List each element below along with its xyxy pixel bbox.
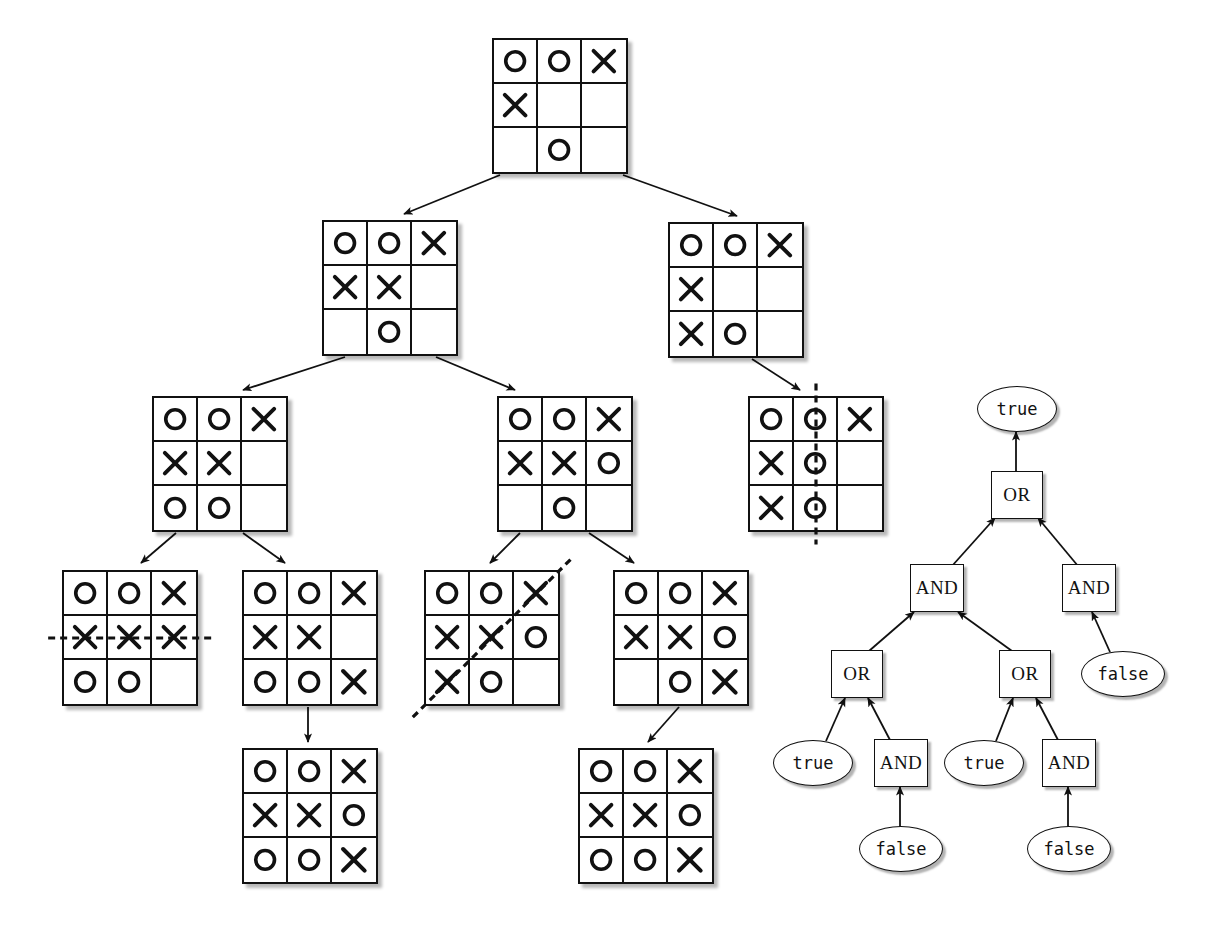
bool-node-b-and-l2[interactable]: AND: [874, 739, 928, 787]
board-cell[interactable]: [514, 660, 558, 704]
board-cell[interactable]: [615, 660, 659, 704]
board-cell[interactable]: [758, 268, 802, 312]
board-cell[interactable]: [703, 572, 747, 616]
board-cell[interactable]: [470, 616, 514, 660]
board-cell[interactable]: [582, 40, 626, 84]
bool-node-b-true-r[interactable]: true: [944, 740, 1024, 786]
board-cell[interactable]: [668, 750, 712, 794]
board-cell[interactable]: [624, 750, 668, 794]
board-cell[interactable]: [670, 224, 714, 268]
level3-board-1-x-wins[interactable]: [62, 570, 198, 706]
root-board[interactable]: [492, 38, 628, 174]
board-cell[interactable]: [426, 660, 470, 704]
board-cell[interactable]: [794, 442, 838, 486]
board-cell[interactable]: [703, 616, 747, 660]
board-cell[interactable]: [324, 222, 368, 266]
board-cell[interactable]: [412, 222, 456, 266]
board-cell[interactable]: [624, 794, 668, 838]
board-cell[interactable]: [750, 486, 794, 530]
board-cell[interactable]: [426, 616, 470, 660]
board-cell[interactable]: [244, 838, 288, 882]
board-cell[interactable]: [332, 750, 376, 794]
board-cell[interactable]: [750, 442, 794, 486]
board-cell[interactable]: [758, 224, 802, 268]
level4-board-1-draw[interactable]: [242, 748, 378, 884]
board-cell[interactable]: [580, 794, 624, 838]
board-cell[interactable]: [242, 398, 286, 442]
board-cell[interactable]: [198, 486, 242, 530]
board-cell[interactable]: [587, 398, 631, 442]
board-cell[interactable]: [244, 750, 288, 794]
board-cell[interactable]: [368, 222, 412, 266]
board-cell[interactable]: [794, 486, 838, 530]
board-cell[interactable]: [538, 40, 582, 84]
level1-right-board[interactable]: [668, 222, 804, 358]
board-cell[interactable]: [470, 572, 514, 616]
bool-node-b-or-root[interactable]: OR: [991, 471, 1043, 519]
board-cell[interactable]: [152, 660, 196, 704]
board-cell[interactable]: [244, 660, 288, 704]
board-cell[interactable]: [412, 266, 456, 310]
board-cell[interactable]: [543, 442, 587, 486]
board-cell[interactable]: [514, 616, 558, 660]
board-cell[interactable]: [714, 312, 758, 356]
board-cell[interactable]: [324, 310, 368, 354]
board-cell[interactable]: [514, 572, 558, 616]
board-cell[interactable]: [288, 660, 332, 704]
board-cell[interactable]: [582, 84, 626, 128]
board-cell[interactable]: [668, 794, 712, 838]
board-cell[interactable]: [494, 128, 538, 172]
board-cell[interactable]: [714, 268, 758, 312]
board-cell[interactable]: [108, 616, 152, 660]
board-cell[interactable]: [543, 486, 587, 530]
board-cell[interactable]: [659, 660, 703, 704]
board-cell[interactable]: [494, 84, 538, 128]
bool-node-b-or-r[interactable]: OR: [999, 650, 1051, 698]
board-cell[interactable]: [288, 838, 332, 882]
board-cell[interactable]: [668, 838, 712, 882]
board-cell[interactable]: [587, 486, 631, 530]
board-cell[interactable]: [714, 224, 758, 268]
board-cell[interactable]: [154, 398, 198, 442]
board-cell[interactable]: [324, 266, 368, 310]
board-cell[interactable]: [758, 312, 802, 356]
board-cell[interactable]: [332, 794, 376, 838]
level3-board-2[interactable]: [242, 570, 378, 706]
bool-node-b-or-l[interactable]: OR: [831, 650, 883, 698]
bool-node-b-and-left[interactable]: AND: [910, 564, 964, 612]
board-cell[interactable]: [244, 794, 288, 838]
board-cell[interactable]: [108, 660, 152, 704]
bool-node-b-true-l[interactable]: true: [773, 740, 853, 786]
level3-board-3-x-wins[interactable]: [424, 570, 560, 706]
bool-node-b-and-right[interactable]: AND: [1062, 564, 1116, 612]
bool-node-b-false-r[interactable]: false: [1081, 651, 1165, 697]
board-cell[interactable]: [198, 398, 242, 442]
board-cell[interactable]: [244, 572, 288, 616]
board-cell[interactable]: [538, 128, 582, 172]
board-cell[interactable]: [580, 750, 624, 794]
level3-board-4[interactable]: [613, 570, 749, 706]
board-cell[interactable]: [242, 486, 286, 530]
board-cell[interactable]: [624, 838, 668, 882]
board-cell[interactable]: [499, 442, 543, 486]
bool-node-b-false-r2[interactable]: false: [1027, 826, 1111, 872]
board-cell[interactable]: [838, 486, 882, 530]
board-cell[interactable]: [426, 572, 470, 616]
board-cell[interactable]: [368, 310, 412, 354]
board-cell[interactable]: [332, 838, 376, 882]
board-cell[interactable]: [242, 442, 286, 486]
level4-board-2-draw[interactable]: [578, 748, 714, 884]
board-cell[interactable]: [838, 398, 882, 442]
board-cell[interactable]: [499, 398, 543, 442]
board-cell[interactable]: [582, 128, 626, 172]
board-cell[interactable]: [750, 398, 794, 442]
board-cell[interactable]: [332, 616, 376, 660]
board-cell[interactable]: [288, 616, 332, 660]
board-cell[interactable]: [659, 572, 703, 616]
board-cell[interactable]: [794, 398, 838, 442]
level1-left-board[interactable]: [322, 220, 458, 356]
board-cell[interactable]: [670, 312, 714, 356]
board-cell[interactable]: [368, 266, 412, 310]
board-cell[interactable]: [332, 572, 376, 616]
board-cell[interactable]: [64, 572, 108, 616]
